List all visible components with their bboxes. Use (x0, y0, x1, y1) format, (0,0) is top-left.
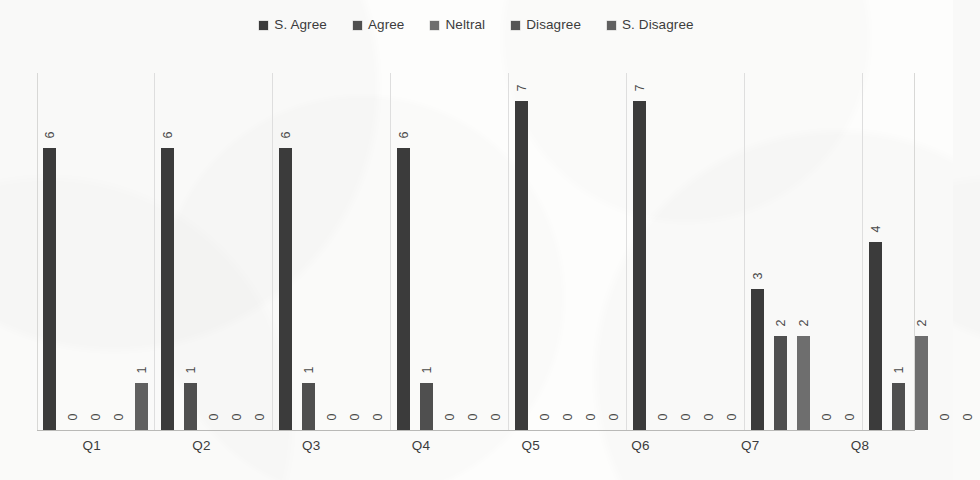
bar-q1-series-2[interactable]: 0 (66, 73, 79, 430)
bar-q3-series-1[interactable]: 6 (279, 73, 292, 430)
bar-q4-series-2[interactable]: 1 (420, 73, 433, 430)
bar-q6-series-3[interactable]: 0 (679, 73, 692, 430)
bar-q2-series-2[interactable]: 1 (184, 73, 197, 430)
bar-q7-series-3[interactable]: 2 (797, 73, 810, 430)
bar-value-label: 3 (752, 273, 764, 280)
bar-rect[interactable] (420, 383, 433, 430)
bar-value-label: 7 (516, 85, 528, 92)
bar-q8-series-5[interactable]: 0 (961, 73, 974, 430)
bar-rect[interactable] (869, 242, 882, 430)
bar-value-label: 0 (585, 414, 597, 421)
bar-q3-series-3[interactable]: 0 (325, 73, 338, 430)
bar-value-label: 0 (657, 414, 669, 421)
bar-group-bars: 70000 (627, 73, 744, 430)
bar-q5-series-1[interactable]: 7 (515, 73, 528, 430)
bar-group-q6: 70000 (627, 73, 745, 430)
bar-group-bars: 60001 (37, 73, 154, 430)
bar-rect[interactable] (135, 383, 148, 430)
bar-value-label: 0 (726, 414, 738, 421)
legend-item[interactable]: Disagree (511, 18, 581, 32)
bar-group-bars: 32200 (745, 73, 862, 430)
bar-group-q8: 41200 (863, 73, 980, 430)
bar-value-label: 0 (939, 414, 951, 421)
bar-q1-series-4[interactable]: 0 (112, 73, 125, 430)
bar-q1-series-3[interactable]: 0 (89, 73, 102, 430)
bar-q8-series-3[interactable]: 2 (915, 73, 928, 430)
legend-item[interactable]: S. Agree (259, 18, 327, 32)
bar-rect[interactable] (633, 101, 646, 430)
bar-q3-series-2[interactable]: 1 (302, 73, 315, 430)
bar-q4-series-1[interactable]: 6 (397, 73, 410, 430)
bar-value-label: 0 (562, 414, 574, 421)
bar-q8-series-4[interactable]: 0 (938, 73, 951, 430)
bar-rect[interactable] (892, 383, 905, 430)
legend-item-label: S. Agree (274, 18, 327, 32)
bar-rect[interactable] (302, 383, 315, 430)
bar-q2-series-1[interactable]: 6 (161, 73, 174, 430)
bar-rect[interactable] (515, 101, 528, 430)
bar-rect[interactable] (184, 383, 197, 430)
legend-item-label: Neltral (445, 18, 485, 32)
bar-rect[interactable] (161, 148, 174, 430)
bar-q6-series-1[interactable]: 7 (633, 73, 646, 430)
bar-value-label: 6 (398, 132, 410, 139)
bar-q8-series-2[interactable]: 1 (892, 73, 905, 430)
bar-rect[interactable] (279, 148, 292, 430)
bar-value-label: 0 (113, 414, 125, 421)
bar-value-label: 0 (231, 414, 243, 421)
bar-q5-series-5[interactable]: 0 (607, 73, 620, 430)
legend-swatch-icon (259, 21, 268, 30)
bar-value-label: 6 (44, 132, 56, 139)
bar-value-label: 0 (467, 414, 479, 421)
bar-q4-series-3[interactable]: 0 (443, 73, 456, 430)
bar-q4-series-5[interactable]: 0 (489, 73, 502, 430)
x-axis-baseline (37, 430, 915, 431)
bar-group-bars: 70000 (509, 73, 626, 430)
bar-q4-series-4[interactable]: 0 (466, 73, 479, 430)
bar-q1-series-1[interactable]: 6 (43, 73, 56, 430)
bar-group-q2: 61000 (155, 73, 273, 430)
x-axis-tick-labels: Q1Q2Q3Q4Q5Q6Q7Q8 (37, 438, 915, 453)
bar-value-label: 0 (680, 414, 692, 421)
bar-value-label: 1 (893, 367, 905, 374)
legend-item[interactable]: S. Disagree (607, 18, 694, 32)
bar-q7-series-4[interactable]: 0 (820, 73, 833, 430)
bar-value-label: 7 (634, 85, 646, 92)
bar-value-label: 1 (185, 367, 197, 374)
bar-q5-series-4[interactable]: 0 (584, 73, 597, 430)
bar-rect[interactable] (751, 289, 764, 430)
bar-value-label: 1 (136, 367, 148, 374)
bar-q5-series-3[interactable]: 0 (561, 73, 574, 430)
bar-q2-series-3[interactable]: 0 (207, 73, 220, 430)
bar-rect[interactable] (774, 336, 787, 430)
bar-value-label: 4 (870, 226, 882, 233)
bar-rect[interactable] (797, 336, 810, 430)
bar-q1-series-5[interactable]: 1 (135, 73, 148, 430)
bar-q8-series-1[interactable]: 4 (869, 73, 882, 430)
bar-group-q5: 70000 (509, 73, 627, 430)
bar-q7-series-1[interactable]: 3 (751, 73, 764, 430)
bar-q6-series-2[interactable]: 0 (656, 73, 669, 430)
bar-q2-series-5[interactable]: 0 (253, 73, 266, 430)
legend-item-label: S. Disagree (622, 18, 694, 32)
bar-group-q1: 60001 (37, 73, 155, 430)
bar-group-bars: 61000 (273, 73, 390, 430)
bar-value-label: 2 (916, 320, 928, 327)
bar-rect[interactable] (43, 148, 56, 430)
bar-q3-series-4[interactable]: 0 (348, 73, 361, 430)
bar-rect[interactable] (397, 148, 410, 430)
bar-q2-series-4[interactable]: 0 (230, 73, 243, 430)
bar-q3-series-5[interactable]: 0 (371, 73, 384, 430)
bar-q5-series-2[interactable]: 0 (538, 73, 551, 430)
bar-group-q3: 61000 (273, 73, 391, 430)
bar-q7-series-5[interactable]: 0 (843, 73, 856, 430)
legend-item[interactable]: Agree (353, 18, 405, 32)
bar-q6-series-4[interactable]: 0 (702, 73, 715, 430)
bar-q6-series-5[interactable]: 0 (725, 73, 738, 430)
bar-q7-series-2[interactable]: 2 (774, 73, 787, 430)
legend-swatch-icon (430, 21, 439, 30)
legend-swatch-icon (353, 21, 362, 30)
legend-item[interactable]: Neltral (430, 18, 485, 32)
x-tick-label-q4: Q4 (366, 438, 476, 453)
bar-rect[interactable] (915, 336, 928, 430)
